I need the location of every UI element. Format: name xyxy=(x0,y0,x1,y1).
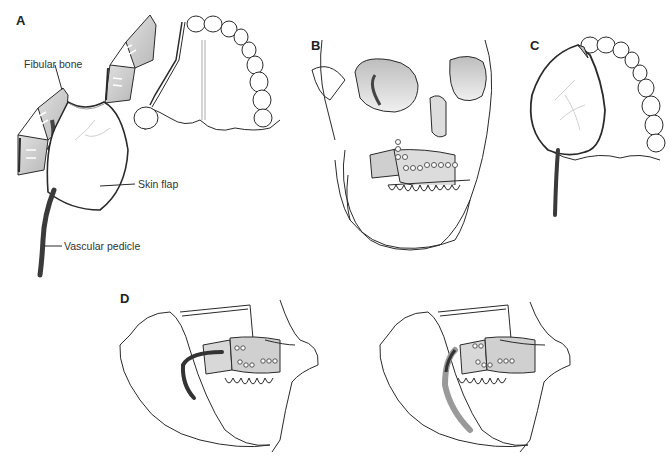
panel-label-a: A xyxy=(16,13,25,28)
panel-d-left-art xyxy=(120,300,318,452)
panel-c-art xyxy=(531,37,665,215)
panel-b-art xyxy=(312,40,492,250)
panel-label-d: D xyxy=(120,291,129,306)
panel-label-c: C xyxy=(530,38,539,53)
label-vascular-pedicle: Vascular pedicle xyxy=(64,240,140,252)
vascular-pedicle-a xyxy=(40,190,54,275)
medical-figure: A B C D Fibular bone Skin flap Vascular … xyxy=(0,0,672,463)
label-fibular-bone: Fibular bone xyxy=(24,58,82,70)
illustration-artwork xyxy=(0,0,672,463)
label-skin-flap: Skin flap xyxy=(138,178,178,190)
skin-paddle-a xyxy=(47,102,128,210)
panel-d-right-art xyxy=(380,302,570,452)
fibula-segment-upper xyxy=(105,15,156,103)
maxilla-palatal-view-a xyxy=(134,16,280,130)
vascular-pedicle-c xyxy=(555,150,558,215)
panel-label-b: B xyxy=(311,38,320,53)
panel-a-art xyxy=(18,15,280,275)
